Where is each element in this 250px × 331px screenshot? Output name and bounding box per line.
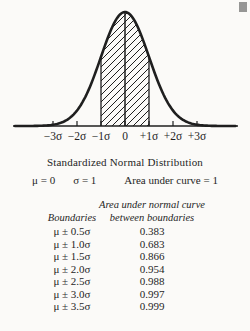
- axis-tick-label: 0: [122, 130, 128, 142]
- boundary-cell: μ ± 1.0σ: [53, 238, 90, 251]
- area-cell: 0.988: [140, 275, 165, 288]
- distribution-params: μ = 0 σ = 1 Area under curve = 1: [0, 174, 250, 186]
- scan-artifact: [239, 2, 247, 12]
- area-table-header: Area under normal curve between boundari…: [0, 199, 250, 225]
- col-header-area-line1: Area under normal curve: [99, 199, 205, 210]
- param-area: Area under curve = 1: [124, 174, 218, 186]
- axis-tick-label: −2σ: [68, 130, 87, 142]
- table-row: μ ± 2.0σ0.954: [0, 263, 250, 276]
- area-cell: 0.997: [140, 288, 165, 301]
- axis-tick-label: −3σ: [44, 130, 63, 142]
- table-row: μ ± 0.5σ0.383: [0, 225, 250, 238]
- boundary-cell: μ ± 2.0σ: [53, 263, 90, 276]
- col-header-area-line2: between boundaries: [110, 212, 194, 223]
- axis-tick-label: +1σ: [140, 130, 159, 142]
- normal-curve-chart: −3σ−2σ−1σ0+1σ+2σ+3σ: [0, 0, 250, 150]
- table-row: μ ± 2.5σ0.988: [0, 275, 250, 288]
- boundary-cell: μ ± 0.5σ: [53, 225, 90, 238]
- axis-tick-label: +2σ: [164, 130, 183, 142]
- axis-tick-label: +3σ: [188, 130, 207, 142]
- boundary-cell: μ ± 2.5σ: [53, 275, 90, 288]
- area-cell: 0.683: [140, 238, 165, 251]
- area-cell: 0.999: [140, 300, 165, 313]
- boundary-cell: μ ± 3.0σ: [53, 288, 90, 301]
- table-row: μ ± 3.5σ0.999: [0, 300, 250, 313]
- area-cell: 0.383: [140, 225, 165, 238]
- chart-title: Standardized Normal Distribution: [0, 156, 250, 168]
- boundary-cell: μ ± 1.5σ: [53, 250, 90, 263]
- area-cell: 0.866: [140, 250, 165, 263]
- table-row: μ ± 1.5σ0.866: [0, 250, 250, 263]
- table-row: μ ± 1.0σ0.683: [0, 238, 250, 251]
- area-table-rows: μ ± 0.5σ0.383μ ± 1.0σ0.683μ ± 1.5σ0.866μ…: [0, 225, 250, 313]
- table-row: μ ± 3.0σ0.997: [0, 288, 250, 301]
- area-cell: 0.954: [140, 263, 165, 276]
- area-table: Area under normal curve between boundari…: [0, 199, 250, 313]
- col-header-boundaries: Boundaries: [48, 212, 96, 223]
- param-sigma: σ = 1: [73, 174, 96, 186]
- axis-tick-label: −1σ: [92, 130, 111, 142]
- normal-distribution-figure: −3σ−2σ−1σ0+1σ+2σ+3σ Standardized Normal …: [0, 0, 250, 331]
- param-mu: μ = 0: [32, 174, 55, 186]
- boundary-cell: μ ± 3.5σ: [53, 300, 90, 313]
